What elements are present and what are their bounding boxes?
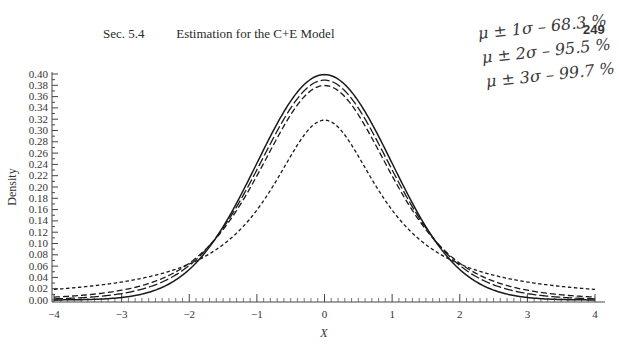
y-tick-label: 0.12 [29,226,48,238]
density-curve-medium-dash [54,86,595,298]
y-tick-label: 0.16 [29,203,49,215]
y-tick-label: 0.36 [29,90,49,102]
x-tick-label: −4 [48,308,60,320]
y-tick-label: 0.06 [29,260,49,272]
y-tick-label: 0.32 [29,113,48,125]
y-tick-label: 0.18 [29,192,49,204]
x-tick-label: 4 [592,308,598,320]
x-tick-label: 2 [457,308,463,320]
y-tick-label: 0.34 [29,101,49,113]
x-tick-label: −1 [251,308,263,320]
y-tick-label: 0.00 [29,294,49,306]
y-axis-label: Density [5,168,19,205]
x-tick-label: 1 [389,308,395,320]
density-curve-short-dash [54,120,595,289]
y-tick-label: 0.04 [29,271,49,283]
y-tick-label: 0.28 [29,135,49,147]
x-tick-label: −3 [116,308,128,320]
chart-curves [54,75,595,300]
y-tick-label: 0.30 [29,124,49,136]
x-tick-label: 3 [525,308,531,320]
y-tick-label: 0.40 [29,68,49,80]
x-tick-label: −2 [183,308,195,320]
y-tick-label: 0.24 [29,158,49,170]
y-tick-label: 0.02 [29,282,48,294]
x-tick-label: 0 [322,308,328,320]
density-curve-long-dash [54,80,595,299]
density-curve-solid [54,75,595,300]
y-tick-label: 0.20 [29,181,49,193]
y-tick-label: 0.26 [29,147,49,159]
y-tick-label: 0.22 [29,169,48,181]
y-tick-label: 0.08 [29,248,49,260]
chart-axes: 0.000.020.040.060.080.100.120.140.160.18… [29,68,605,321]
density-chart: 0.000.020.040.060.080.100.120.140.160.18… [0,0,619,357]
y-tick-label: 0.10 [29,237,49,249]
y-tick-label: 0.38 [29,79,49,91]
x-axis-label: X [319,326,328,340]
y-tick-label: 0.14 [29,214,49,226]
